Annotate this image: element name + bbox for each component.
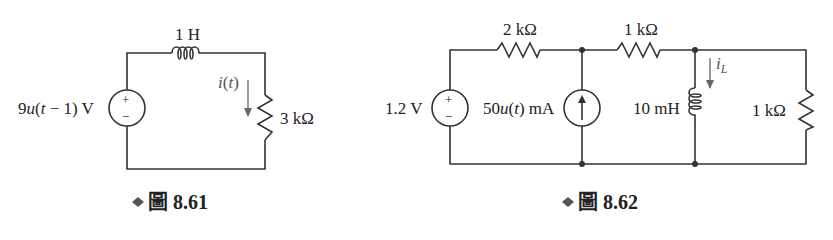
diamond-icon xyxy=(562,197,574,207)
minus-sign: − xyxy=(445,109,452,124)
diamond-icon xyxy=(132,197,144,207)
wire-bottom xyxy=(450,126,806,164)
node-top-mid xyxy=(579,47,585,53)
caption-8-62: 圖 8.62 xyxy=(562,191,638,213)
current-source-label: 50u(t) mA xyxy=(483,99,555,118)
svg-text:圖 8.62: 圖 8.62 xyxy=(578,191,638,213)
inductor-current-label: iL xyxy=(716,54,728,76)
inductor-10mh xyxy=(689,88,701,127)
plus-sign: + xyxy=(445,92,452,107)
resistor-label: 3 kΩ xyxy=(280,109,314,128)
wire-top-left xyxy=(127,53,172,90)
current-arrow-icon xyxy=(244,80,252,117)
svg-text:圖 8.61: 圖 8.61 xyxy=(148,191,208,213)
voltage-source-label: 9u(t − 1) V xyxy=(18,99,95,118)
figure-8-61: 1 H + − 9u(t − 1) V 3 kΩ i(t) 圖 8.61 xyxy=(18,25,314,213)
resistor-1k-load-label: 1 kΩ xyxy=(752,101,786,120)
inductor-label: 10 mH xyxy=(633,99,680,118)
wire-bottom xyxy=(127,126,265,169)
plus-sign: + xyxy=(122,92,129,107)
resistor-1k-load xyxy=(799,90,813,130)
node-top-right xyxy=(692,47,698,53)
voltage-source: + − xyxy=(432,90,468,126)
inductor-label: 1 H xyxy=(175,25,200,44)
resistor-2k xyxy=(497,43,540,57)
current-source xyxy=(564,90,600,126)
current-arrow-icon xyxy=(706,58,714,89)
node-bottom-right xyxy=(692,161,698,167)
figure-8-62: + − 1.2 V 2 kΩ 50u(t) mA 1 kΩ 10 mH xyxy=(385,20,813,213)
current-label: i(t) xyxy=(218,73,239,92)
voltage-source: + − xyxy=(109,90,145,126)
wire-left-top xyxy=(450,50,497,90)
resistor-2k-label: 2 kΩ xyxy=(503,20,537,39)
caption-8-61: 圖 8.61 xyxy=(132,191,208,213)
minus-sign: − xyxy=(122,109,129,124)
node-bottom-mid xyxy=(579,161,585,167)
resistor-1k-series xyxy=(617,43,660,57)
resistor-1k-series-label: 1 kΩ xyxy=(624,20,658,39)
voltage-source-label: 1.2 V xyxy=(385,99,423,118)
inductor-1h xyxy=(172,47,210,59)
wire-right-top xyxy=(660,50,806,90)
resistor-3k xyxy=(258,95,272,140)
